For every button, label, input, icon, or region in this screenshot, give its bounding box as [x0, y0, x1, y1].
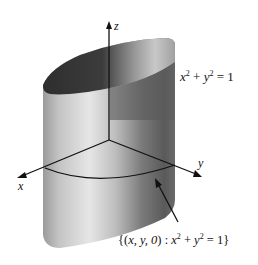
y-axis-arrowhead — [193, 170, 202, 177]
x-axis-label: x — [18, 180, 23, 192]
y-axis-label: y — [198, 157, 203, 169]
x-axis-arrowhead — [17, 172, 27, 178]
z-axis-arrowhead — [106, 21, 112, 29]
trace-set-label: {(x, y, 0) : x2 + y2 = 1} — [118, 234, 229, 247]
surface-equation-label: x2 + y2 = 1 — [180, 70, 234, 83]
z-axis-label: z — [114, 20, 119, 32]
cylinder-diagram — [0, 0, 258, 265]
